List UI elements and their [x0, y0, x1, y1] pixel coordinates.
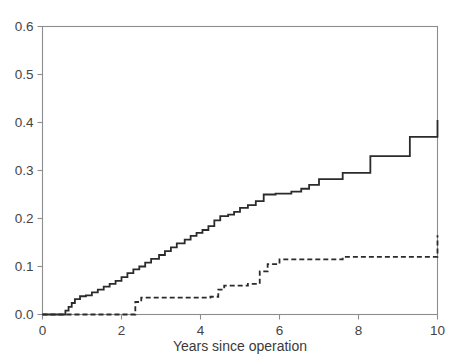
y-tick-label: 0.4 [15, 115, 34, 130]
x-tick-label: 6 [276, 323, 284, 338]
y-tick-label: 0.6 [15, 19, 34, 34]
data-series [43, 120, 438, 314]
dashed-curve [43, 235, 438, 314]
y-tick-label: 0.3 [15, 163, 34, 178]
x-tick-label: 10 [430, 323, 445, 338]
y-tick-label: 0.1 [15, 259, 34, 274]
axis-tick-labels: 0.00.10.20.30.40.50.60246810 [15, 19, 445, 337]
axis-ticks [38, 27, 438, 320]
x-tick-label: 4 [197, 323, 205, 338]
y-tick-label: 0.2 [15, 211, 34, 226]
x-tick-label: 8 [355, 323, 363, 338]
x-axis-title: Years since operation [173, 338, 307, 354]
x-tick-label: 2 [118, 323, 126, 338]
plot-frame [43, 27, 438, 315]
x-tick-label: 0 [39, 323, 47, 338]
y-tick-label: 0.0 [15, 307, 34, 322]
y-tick-label: 0.5 [15, 67, 34, 82]
plot-svg: 0.00.10.20.30.40.50.60246810 Years since… [0, 0, 461, 362]
kaplan-meier-cumulative-incidence-chart: 0.00.10.20.30.40.50.60246810 Years since… [0, 0, 461, 362]
